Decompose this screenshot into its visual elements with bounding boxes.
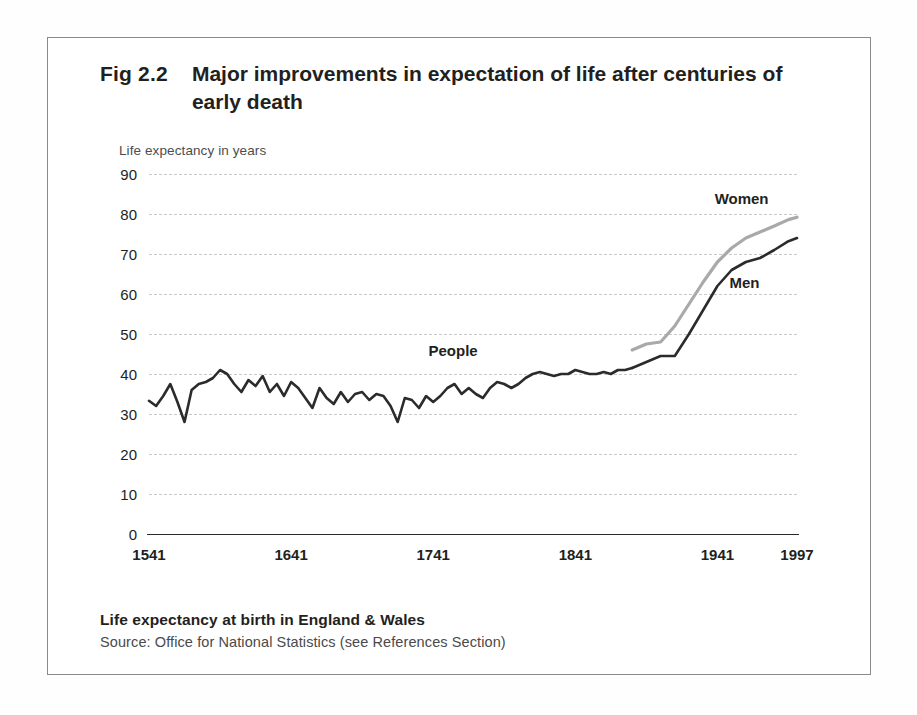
y-axis-label: Life expectancy in years — [119, 143, 266, 158]
x-axis-tick-label: 1941 — [701, 546, 734, 563]
y-axis-tick-label: 20 — [120, 446, 137, 463]
series-label-men: Men — [729, 274, 759, 291]
y-axis-tick-label: 60 — [120, 286, 137, 303]
y-axis-tick-label: 0 — [129, 526, 137, 543]
y-axis-tick-label: 50 — [120, 326, 137, 343]
y-axis-tick-label: 70 — [120, 246, 137, 263]
figure-frame: Fig 2.2 Major improvements in expectatio… — [47, 37, 871, 675]
y-axis-tick-label: 80 — [120, 206, 137, 223]
footer-source: Source: Office for National Statistics (… — [100, 634, 830, 650]
series-line-people — [149, 368, 632, 422]
figure-number: Fig 2.2 — [100, 62, 168, 86]
series-label-women: Women — [715, 190, 769, 207]
y-axis-tick-label: 30 — [120, 406, 137, 423]
footer-title: Life expectancy at birth in England & Wa… — [100, 611, 830, 629]
page-title: Major improvements in expectation of lif… — [192, 60, 800, 115]
x-axis-tick-label: 1997 — [780, 546, 813, 563]
series-line-women — [632, 217, 797, 350]
y-axis-tick-label: 10 — [120, 486, 137, 503]
figure-page: Fig 2.2 Major improvements in expectatio… — [0, 0, 917, 715]
y-axis-tick-label: 40 — [120, 366, 137, 383]
y-axis-tick-label: 90 — [120, 166, 137, 183]
plot-area: 9080706050403020100 15411641174118411941… — [149, 174, 797, 534]
series-line-men — [632, 238, 797, 368]
footer-block: Life expectancy at birth in England & Wa… — [100, 611, 830, 650]
x-axis-tick-label: 1841 — [559, 546, 592, 563]
x-axis-line — [147, 534, 799, 535]
x-axis-tick-label: 1741 — [417, 546, 450, 563]
x-axis-tick-label: 1541 — [132, 546, 165, 563]
series-label-people: People — [429, 342, 478, 359]
title-block: Fig 2.2 Major improvements in expectatio… — [100, 60, 800, 115]
x-axis-tick-label: 1641 — [274, 546, 307, 563]
